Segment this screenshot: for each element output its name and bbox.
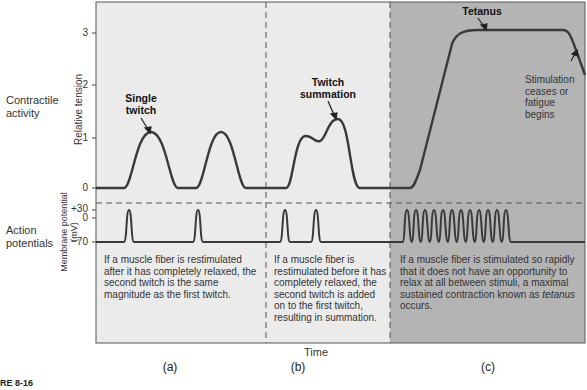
membrane-tick-minus70: −70: [64, 236, 88, 247]
diagram-canvas: [0, 0, 587, 390]
membrane-ticks: [92, 210, 96, 242]
row-label-contractile: Contractile activity: [6, 94, 76, 120]
figure-label: RE 8-16: [0, 378, 33, 388]
tension-tick-1: 1: [64, 132, 88, 143]
annotation-twitch-summation: Twitch summation: [296, 76, 360, 100]
caption-panel-b: If a muscle fiber is restimulated before…: [274, 254, 388, 323]
membrane-tick-0: 0: [64, 212, 88, 223]
caption-panel-c: If a muscle fiber is stimulated so rapid…: [400, 254, 582, 312]
caption-c-text-end: occurs.: [400, 300, 432, 311]
tension-tick-3: 3: [64, 27, 88, 38]
panel-label-a: (a): [150, 360, 190, 374]
tension-tick-0: 0: [64, 182, 88, 193]
tension-ticks: [92, 33, 96, 188]
panel-label-b: (b): [278, 360, 318, 374]
panel-label-c: (c): [468, 360, 508, 374]
x-axis-label: Time: [296, 346, 336, 358]
annotation-stimulation-ceases: Stimulation ceases or fatigue begins: [525, 74, 583, 120]
tension-axis-label: Relative tension: [73, 60, 84, 160]
annotation-single-twitch: Single twitch: [118, 92, 164, 116]
caption-panel-a: If a muscle fiber is restimulated after …: [104, 254, 264, 300]
caption-c-emphasis: tetanus: [542, 289, 575, 300]
tension-tick-2: 2: [64, 79, 88, 90]
annotation-tetanus: Tetanus: [452, 5, 512, 17]
